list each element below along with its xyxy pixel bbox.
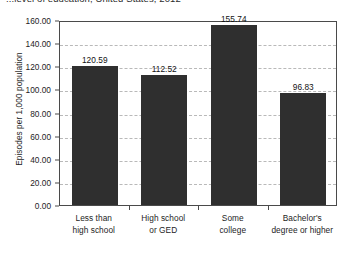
bar (211, 25, 257, 205)
y-tick-label: 20.00 (0, 178, 56, 188)
x-axis-category-line: degree or higher (268, 225, 338, 237)
plot-area: 120.59112.52155.7496.83 (59, 21, 337, 206)
bar-value-label: 112.52 (152, 64, 177, 74)
x-axis-category-label: Less thanhigh school (59, 213, 129, 236)
y-tick-label: 140.00 (0, 39, 56, 49)
x-axis-labels: Less thanhigh schoolHigh schoolor GEDSom… (59, 213, 337, 253)
x-axis-category-line: Less than (59, 213, 129, 225)
y-axis-ticks: 160.00140.00120.00100.0080.0060.0040.002… (0, 0, 56, 256)
x-tick-mark (268, 206, 269, 210)
x-axis-ticks (59, 206, 337, 212)
x-tick-mark (198, 206, 199, 210)
bar-slot: 96.83 (269, 22, 339, 205)
x-axis-category-line: Bachelor's (268, 213, 338, 225)
bar-value-label: 96.83 (293, 82, 314, 92)
bar (280, 93, 326, 205)
y-tick-label: 120.00 (0, 62, 56, 72)
y-tick-label: 100.00 (0, 85, 56, 95)
bar-value-label: 155.74 (221, 14, 247, 24)
x-axis-category-label: Somecollege (198, 213, 268, 236)
x-axis-category-label: High schoolor GED (129, 213, 199, 236)
bar-series: 120.59112.52155.7496.83 (60, 22, 336, 205)
bar (141, 75, 187, 205)
y-tick-label: 60.00 (0, 132, 56, 142)
y-tick-label: 160.00 (0, 16, 56, 26)
y-tick-label: 40.00 (0, 155, 56, 165)
chart-title: ...level of education, United States, 20… (6, 0, 346, 5)
bar-slot: 112.52 (130, 22, 200, 205)
x-axis-category-line: high school (59, 225, 129, 237)
bar (72, 66, 118, 205)
x-axis-category-line: High school (129, 213, 199, 225)
y-tick-label: 80.00 (0, 109, 56, 119)
x-axis-category-line: college (198, 225, 268, 237)
bar-value-label: 120.59 (82, 55, 108, 65)
x-axis-category-line: Some (198, 213, 268, 225)
x-axis-category-label: Bachelor'sdegree or higher (268, 213, 338, 236)
bar-slot: 155.74 (199, 22, 269, 205)
y-tick-label: 0.00 (0, 201, 56, 211)
x-axis-category-line: or GED (129, 225, 199, 237)
bar-slot: 120.59 (60, 22, 130, 205)
x-tick-mark (129, 206, 130, 210)
